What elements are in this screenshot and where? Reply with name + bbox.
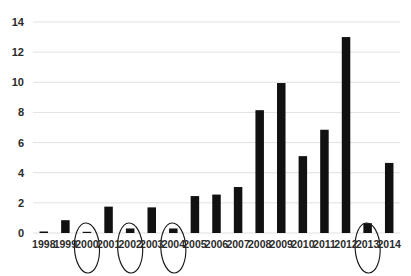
bar-1999: [61, 220, 70, 233]
y-tick-2: 2: [18, 197, 24, 209]
y-tick-12: 12: [12, 46, 24, 58]
y-tick-10: 10: [12, 76, 24, 88]
x-tick-2009: 2009: [270, 238, 294, 250]
bar-2003: [147, 207, 156, 233]
y-tick-0: 0: [18, 227, 24, 239]
bar-2007: [234, 187, 243, 233]
x-tick-1999: 1999: [54, 238, 78, 250]
bar-2012: [342, 37, 351, 233]
bar-2014: [385, 163, 394, 233]
y-tick-4: 4: [18, 167, 25, 179]
bar-2000: [83, 232, 92, 233]
y-tick-6: 6: [18, 137, 24, 149]
x-tick-2007: 2007: [226, 238, 250, 250]
y-tick-14: 14: [12, 16, 25, 28]
x-axis-tick-labels: 1998199920002001200220032004200520062007…: [32, 238, 401, 250]
x-tick-2010: 2010: [291, 238, 315, 250]
bar-2005: [191, 196, 200, 233]
x-tick-2012: 2012: [334, 238, 358, 250]
bar-2008: [255, 110, 264, 233]
x-tick-2003: 2003: [140, 238, 164, 250]
x-tick-2001: 2001: [97, 238, 121, 250]
x-tick-1998: 1998: [32, 238, 56, 250]
bar-2004: [169, 228, 178, 233]
bar-2009: [277, 83, 286, 233]
x-tick-2011: 2011: [313, 238, 336, 250]
bar-2011: [320, 130, 329, 233]
y-tick-8: 8: [18, 106, 24, 118]
bar-2002: [126, 228, 134, 233]
x-tick-2004: 2004: [162, 238, 186, 250]
bar-2010: [299, 156, 308, 233]
bar-1998: [40, 231, 49, 233]
bar-chart: 02468101214 1998199920002001200220032004…: [0, 0, 411, 276]
x-tick-2013: 2013: [356, 238, 380, 250]
bar-2001: [104, 207, 113, 233]
bar-2006: [212, 195, 221, 233]
x-tick-2006: 2006: [205, 238, 229, 250]
x-tick-2002: 2002: [118, 238, 142, 250]
x-tick-2008: 2008: [248, 238, 272, 250]
x-tick-2005: 2005: [183, 238, 207, 250]
x-tick-2014: 2014: [378, 238, 402, 250]
x-tick-2000: 2000: [75, 238, 99, 250]
